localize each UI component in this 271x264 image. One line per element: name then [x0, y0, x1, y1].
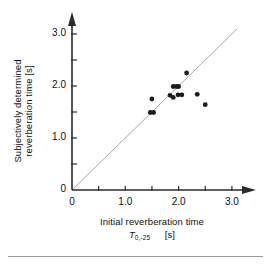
- x-tick-label-2.0: 2.0: [169, 196, 189, 207]
- x-axis-symbol-subscript: 0,-25: [135, 234, 150, 241]
- y-tick-label-0: 0: [38, 183, 66, 194]
- data-point: [171, 95, 176, 100]
- data-point: [179, 92, 184, 97]
- data-point: [150, 97, 155, 102]
- x-tick-label-3.0: 3.0: [222, 196, 242, 207]
- y-axis-label-line2: reverberation time [s]: [23, 23, 34, 199]
- data-point: [203, 102, 208, 107]
- x-tick-label-0: 0: [62, 196, 82, 207]
- bottom-divider-rule: [8, 256, 263, 257]
- x-axis-label: Initial reverberation time T0,-25 [s]: [62, 216, 242, 241]
- x-axis-label-symbol-row: T0,-25 [s]: [62, 229, 242, 241]
- y-tick-label-2.0: 2.0: [38, 79, 66, 90]
- x-axis-arrowhead: [242, 186, 256, 194]
- data-point: [176, 84, 181, 89]
- data-points-group: [148, 71, 208, 115]
- x-axis-label-main: Initial reverberation time: [62, 216, 242, 227]
- scatter-plot-figure: 01.02.03.0 01.02.03.0 Subjectively deter…: [0, 0, 271, 264]
- data-point: [195, 92, 200, 97]
- x-tick-label-1.0: 1.0: [115, 196, 135, 207]
- data-point: [184, 71, 189, 76]
- y-tick-label-1.0: 1.0: [38, 131, 66, 142]
- y-axis-label: Subjectively determined reverberation ti…: [12, 23, 38, 199]
- x-axis-symbol: T: [129, 229, 135, 240]
- data-point: [151, 110, 156, 115]
- y-tick-label-3.0: 3.0: [38, 27, 66, 38]
- y-axis-label-line1: Subjectively determined: [12, 23, 23, 199]
- x-axis-unit: [s]: [165, 229, 175, 240]
- y-axis-arrowhead: [68, 12, 76, 26]
- identity-reference-line: [72, 29, 237, 190]
